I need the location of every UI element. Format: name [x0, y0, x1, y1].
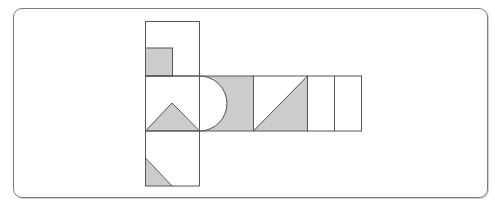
shaded-semicircle-cutout	[199, 76, 253, 131]
shaded-small-square	[145, 48, 172, 76]
cube-net-diagram	[0, 0, 495, 214]
shaded-triangle	[145, 103, 199, 131]
